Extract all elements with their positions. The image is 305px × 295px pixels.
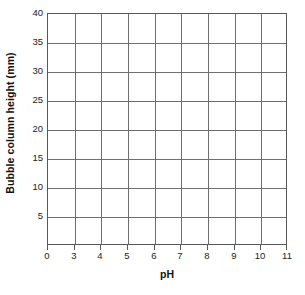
y-axis-tick-label: 25 [32, 95, 43, 105]
y-axis-tick-label: 20 [32, 124, 43, 134]
x-axis-tick-label: 3 [71, 251, 76, 261]
gridline-vertical [155, 14, 156, 244]
plot-area [47, 13, 287, 245]
gridline-vertical [181, 14, 182, 244]
x-axis-tick-label: 4 [97, 251, 102, 261]
y-axis-tick-labels: 403530252015105 [20, 13, 46, 245]
y-axis-tick-label: 35 [32, 37, 43, 47]
gridline-horizontal [48, 130, 286, 131]
x-axis-tick-label: 7 [177, 251, 182, 261]
x-axis-tick-labels: 034567891011 [47, 251, 287, 265]
chart-figure: Bubble column height (mm) 40353025201510… [0, 0, 305, 295]
gridline-vertical [101, 14, 102, 244]
y-axis-tick-label: 30 [32, 66, 43, 76]
x-axis-tick-marks [47, 245, 287, 250]
gridline-vertical [75, 14, 76, 244]
x-axis-tick-label: 0 [44, 251, 49, 261]
x-axis-tick-label: 10 [255, 251, 266, 261]
gridline-horizontal [48, 101, 286, 102]
gridline-vertical [128, 14, 129, 244]
gridline-horizontal [48, 159, 286, 160]
gridline-horizontal [48, 217, 286, 218]
y-axis-tick-label: 15 [32, 153, 43, 163]
y-axis-tick-label: 5 [38, 211, 43, 221]
x-axis-tick-label: 11 [282, 251, 292, 261]
y-axis-title-text: Bubble column height (mm) [4, 52, 16, 193]
gridline-horizontal [48, 188, 286, 189]
y-axis-title: Bubble column height (mm) [0, 0, 20, 246]
gridline-vertical [208, 14, 209, 244]
y-axis-tick-label: 40 [32, 8, 43, 18]
x-axis-title: pH [47, 268, 287, 280]
gridline-vertical [235, 14, 236, 244]
x-axis-tick-label: 9 [231, 251, 236, 261]
x-axis-tick-label: 8 [204, 251, 209, 261]
gridline-horizontal [48, 43, 286, 44]
x-axis-tick-label: 6 [151, 251, 156, 261]
gridline-vertical [261, 14, 262, 244]
gridline-horizontal [48, 72, 286, 73]
y-axis-tick-label: 10 [32, 182, 43, 192]
x-axis-tick-label: 5 [124, 251, 129, 261]
